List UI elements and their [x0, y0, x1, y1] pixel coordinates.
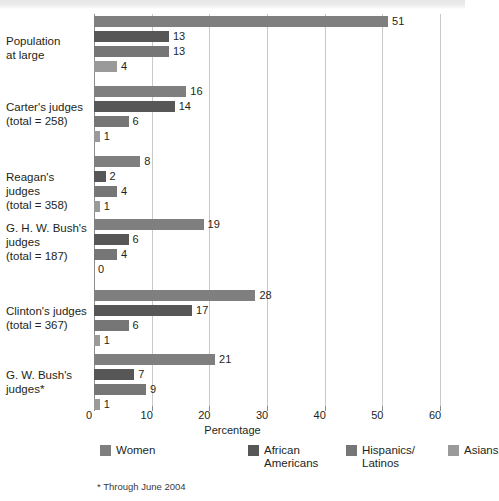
bar-value-label: 8	[144, 155, 150, 167]
legend-item[interactable]: African Americans	[248, 444, 318, 470]
bar-row: 21	[94, 354, 440, 365]
bar-row: 4	[94, 249, 440, 260]
bar-value-label: 21	[219, 353, 231, 365]
bar	[94, 46, 169, 57]
bar-row: 4	[94, 186, 440, 197]
bar-row: 1	[94, 131, 440, 142]
bar	[94, 384, 146, 395]
bar-group: Carter's judges (total = 258)161461	[94, 86, 440, 146]
bar-value-label: 1	[104, 398, 110, 410]
bar-value-label: 9	[150, 383, 156, 395]
bar-row: 8	[94, 156, 440, 167]
category-label: Clinton's judges (total = 367)	[6, 304, 90, 332]
footnote: * Through June 2004	[97, 481, 186, 492]
bar	[94, 305, 192, 316]
category-label: G. W. Bush's judges*	[6, 368, 90, 396]
legend-label: African Americans	[264, 444, 318, 470]
bar-value-label: 16	[190, 85, 202, 97]
bar-group: Reagan's judges (total = 358)8241	[94, 156, 440, 216]
bar-group: Clinton's judges (total = 367)281761	[94, 290, 440, 350]
bar-row: 6	[94, 116, 440, 127]
bar	[94, 61, 117, 72]
bar-row: 13	[94, 31, 440, 42]
bar	[94, 234, 129, 245]
legend-label: Women	[116, 444, 155, 457]
x-axis-title: Percentage	[0, 424, 465, 436]
bar-value-label: 6	[133, 233, 139, 245]
bar-group: Population at large5113134	[94, 16, 440, 76]
bar-value-label: 4	[121, 248, 127, 260]
bar-value-label: 51	[392, 15, 404, 27]
bar-value-label: 28	[259, 289, 271, 301]
bar	[94, 290, 255, 301]
chart-legend: WomenAfrican AmericansHispanics/ Latinos…	[100, 444, 440, 478]
x-tick-label-0: 0	[86, 409, 92, 421]
bar	[94, 116, 129, 127]
bar	[94, 156, 140, 167]
legend-item[interactable]: Women	[100, 444, 155, 457]
bar-row: 14	[94, 101, 440, 112]
legend-item[interactable]: Asians	[448, 444, 499, 457]
bar-row: 0	[94, 264, 440, 275]
bar	[94, 16, 388, 27]
bar-group: G. W. Bush's judges*21791	[94, 354, 440, 414]
bar-value-label: 1	[104, 130, 110, 142]
category-label: G. H. W. Bush's judges (total = 187)	[6, 221, 90, 263]
bar-row: 6	[94, 234, 440, 245]
legend-swatch-icon	[346, 445, 357, 456]
bar-row: 7	[94, 369, 440, 380]
bar-value-label: 2	[110, 170, 116, 182]
bar-row: 19	[94, 219, 440, 230]
legend-swatch-icon	[448, 445, 459, 456]
bar-row: 1	[94, 335, 440, 346]
legend-swatch-icon	[248, 445, 259, 456]
category-label: Reagan's judges (total = 358)	[6, 170, 90, 212]
bar-row: 4	[94, 61, 440, 72]
bar	[94, 171, 106, 182]
bar-value-label: 4	[121, 185, 127, 197]
bar-row: 28	[94, 290, 440, 301]
bar	[94, 354, 215, 365]
bar	[94, 320, 129, 331]
bar	[94, 131, 100, 142]
bar-value-label: 6	[133, 319, 139, 331]
bar	[94, 399, 100, 410]
bar-row: 1	[94, 201, 440, 212]
bar	[94, 101, 175, 112]
bar	[94, 201, 100, 212]
bar-value-label: 6	[133, 115, 139, 127]
bar-value-label: 0	[98, 263, 104, 275]
bar-row: 1	[94, 399, 440, 410]
bar-row: 13	[94, 46, 440, 57]
bar-value-label: 7	[138, 368, 144, 380]
bar	[94, 249, 117, 260]
bar-value-label: 1	[104, 200, 110, 212]
bar-value-label: 13	[173, 30, 185, 42]
bar	[94, 31, 169, 42]
gridline-60	[440, 14, 441, 406]
legend-item[interactable]: Hispanics/ Latinos	[346, 444, 415, 470]
bar	[94, 86, 186, 97]
bar-row: 2	[94, 171, 440, 182]
bar-value-label: 13	[173, 45, 185, 57]
bar	[94, 335, 100, 346]
bar-value-label: 4	[121, 60, 127, 72]
bar-value-label: 19	[208, 218, 220, 230]
bar-row: 51	[94, 16, 440, 27]
legend-swatch-icon	[100, 445, 111, 456]
bar-value-label: 17	[196, 304, 208, 316]
legend-label: Asians	[464, 444, 499, 457]
plot-area: Population at large5113134Carter's judge…	[94, 14, 440, 406]
bar-row: 17	[94, 305, 440, 316]
bar-row: 16	[94, 86, 440, 97]
bar	[94, 219, 204, 230]
bar	[94, 369, 134, 380]
legend-label: Hispanics/ Latinos	[362, 444, 415, 470]
category-label: Carter's judges (total = 258)	[6, 100, 90, 128]
bar-row: 9	[94, 384, 440, 395]
bar-row: 6	[94, 320, 440, 331]
category-label: Population at large	[6, 34, 90, 62]
bar-value-label: 1	[104, 334, 110, 346]
bar-group: G. H. W. Bush's judges (total = 187)1964…	[94, 219, 440, 279]
